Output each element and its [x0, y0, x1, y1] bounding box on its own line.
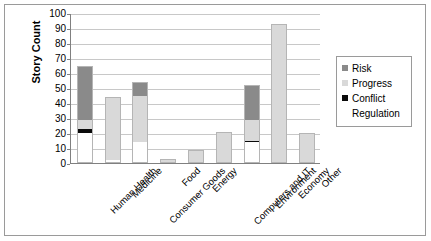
x-axis-category-labels: Human HealthMedicineConsumer GoodsFoodEn…: [70, 165, 320, 237]
legend-item: Progress: [342, 76, 407, 90]
bar-outline: [105, 97, 121, 163]
legend-label: Regulation: [352, 108, 400, 119]
legend-item: Regulation: [342, 106, 407, 120]
bar-outline: [216, 132, 232, 164]
y-axis-tick-label: 80: [40, 39, 66, 49]
bar-stack: [244, 13, 260, 163]
legend-swatch-icon: [342, 80, 348, 86]
bar-outline: [299, 133, 315, 163]
y-axis-tick-label: 30: [40, 114, 66, 124]
y-axis-tick-labels: 0102030405060708090100: [38, 14, 66, 164]
y-axis-tick-label: 90: [40, 24, 66, 34]
bar-stack: [160, 13, 176, 163]
legend-swatch-icon: [342, 95, 348, 101]
plot-area: [70, 14, 320, 164]
y-axis-tick-label: 10: [40, 144, 66, 154]
bar-stack: [299, 13, 315, 163]
y-axis-tick-label: 20: [40, 129, 66, 139]
bar-stack: [216, 13, 232, 163]
y-axis-tick-label: 0: [40, 159, 66, 169]
y-axis-tick-label: 70: [40, 54, 66, 64]
bar-outline: [271, 24, 287, 164]
bar-stack: [271, 13, 287, 163]
bar-outline: [160, 159, 176, 164]
legend-label: Conflict: [352, 93, 385, 104]
bar-outline: [77, 66, 93, 164]
bar-stack: [132, 13, 148, 163]
chart-figure: Story Count 0102030405060708090100 Human…: [0, 0, 431, 241]
y-axis-tick-label: 50: [40, 84, 66, 94]
legend-item: Risk: [342, 61, 407, 75]
legend-label: Risk: [352, 63, 371, 74]
bar-outline: [132, 82, 148, 163]
legend-item: Conflict: [342, 91, 407, 105]
y-axis-tick-label: 40: [40, 99, 66, 109]
bar-outline: [188, 150, 204, 164]
bar-stack: [105, 13, 121, 163]
legend-label: Progress: [352, 78, 392, 89]
legend-swatch-icon: [342, 110, 348, 116]
bar-stack: [77, 13, 93, 163]
bar-stack: [188, 13, 204, 163]
chart-legend: RiskProgressConflictRegulation: [336, 56, 412, 127]
y-axis-tick-label: 100: [40, 9, 66, 19]
bar-outline: [244, 85, 260, 163]
y-axis-tick-label: 60: [40, 69, 66, 79]
legend-swatch-icon: [342, 65, 348, 71]
